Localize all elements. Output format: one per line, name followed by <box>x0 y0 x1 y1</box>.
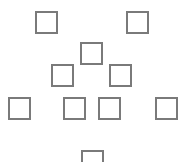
empty-box <box>98 97 121 120</box>
empty-box <box>35 11 58 34</box>
empty-box <box>51 64 74 87</box>
empty-box <box>80 42 103 65</box>
empty-box <box>126 11 149 34</box>
empty-box <box>109 64 132 87</box>
empty-box <box>8 97 31 120</box>
empty-box <box>63 97 86 120</box>
empty-box <box>81 150 104 162</box>
empty-box <box>155 97 178 120</box>
